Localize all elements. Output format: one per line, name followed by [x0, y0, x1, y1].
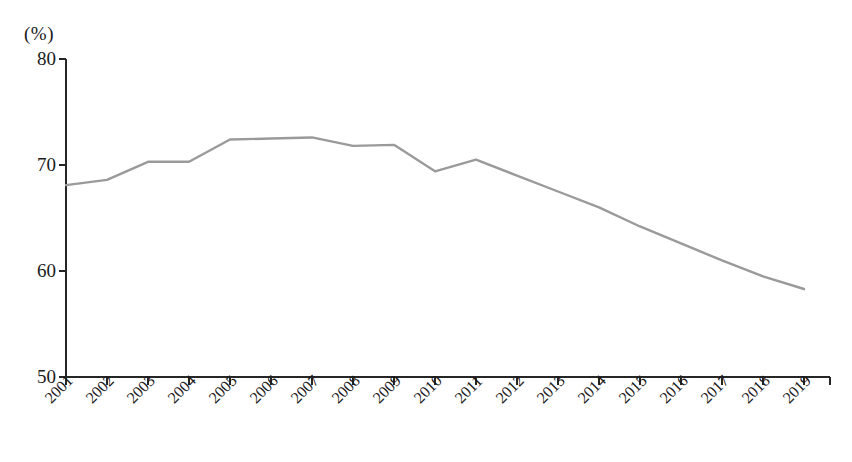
y-axis-tick-label: 80	[37, 49, 56, 68]
figure-caption	[0, 452, 852, 462]
data-series-group	[66, 137, 804, 289]
axes	[59, 59, 830, 385]
y-axis-ticks	[59, 59, 66, 377]
y-axis-tick-label: 60	[37, 261, 56, 280]
y-axis-tick-label: 70	[37, 155, 56, 174]
series-line-path	[66, 137, 804, 289]
line-chart: (%) 50607080 200120022003200420052006200…	[0, 0, 852, 462]
